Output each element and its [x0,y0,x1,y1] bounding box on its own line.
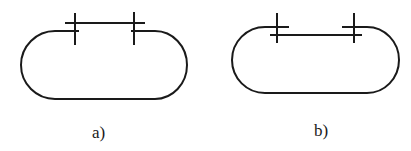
diagram-canvas [0,0,411,151]
panel-a-loop [21,31,187,99]
panel-a-figure [21,12,187,99]
panel-a-label: a) [92,124,105,141]
panel-b-label: b) [314,122,328,139]
panel-b-figure [232,13,399,93]
panel-b-loop [232,27,399,93]
